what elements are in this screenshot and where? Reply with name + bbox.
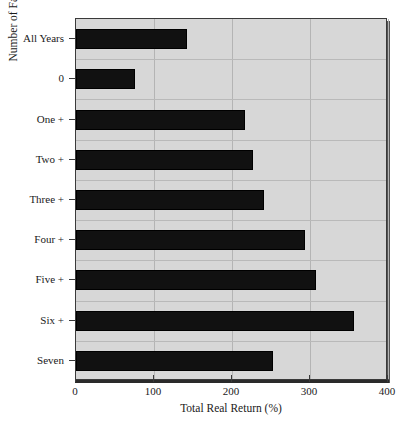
y-axis-tick-label: Four + [34, 233, 64, 245]
x-axis-tick [153, 375, 154, 382]
bar [76, 29, 187, 49]
bar [76, 311, 354, 331]
bar [76, 230, 305, 250]
y-axis-tick [69, 38, 76, 39]
y-axis-title: Number of Factors [4, 0, 22, 199]
y-axis-tick-label: Six + [40, 314, 64, 326]
bar [76, 351, 273, 371]
x-axis-tick-label: 200 [223, 385, 240, 397]
bar-series [76, 19, 386, 379]
bar [76, 69, 135, 89]
x-axis-tick-label: 0 [72, 385, 78, 397]
x-axis-tick [231, 375, 232, 382]
y-axis-tick-label: One + [37, 113, 64, 125]
x-axis-tick [309, 375, 310, 382]
plot-area [75, 18, 387, 380]
bar [76, 190, 264, 210]
y-axis-tick [69, 279, 76, 280]
bar [76, 150, 253, 170]
gridline-vertical [388, 19, 389, 379]
x-axis-title: Total Real Return (%) [75, 402, 387, 414]
x-axis-tick-label: 400 [379, 385, 396, 397]
y-axis-tick-label: Seven [37, 354, 64, 366]
bar [76, 270, 316, 290]
y-axis-tick [69, 159, 76, 160]
y-axis-tick [69, 360, 76, 361]
y-axis-tick-label: Two + [36, 153, 64, 165]
x-axis-line [75, 380, 389, 383]
y-axis-tick [69, 320, 76, 321]
x-axis-tick-label: 100 [145, 385, 162, 397]
y-axis-tick-label: Five + [35, 273, 64, 285]
y-axis-tick [69, 239, 76, 240]
x-axis-tick [387, 375, 388, 382]
y-axis-tick-label: 0 [59, 72, 65, 84]
y-axis-tick-label: All Years [23, 32, 64, 44]
y-axis-tick-label: Three + [29, 193, 64, 205]
chart-figure: 0100200300400 All Years0One +Two +Three … [0, 0, 416, 429]
bar [76, 110, 245, 130]
x-axis-tick-label: 300 [301, 385, 318, 397]
x-axis-tick [75, 375, 76, 382]
y-axis-tick [69, 78, 76, 79]
y-axis-tick [69, 119, 76, 120]
y-axis-tick [69, 199, 76, 200]
